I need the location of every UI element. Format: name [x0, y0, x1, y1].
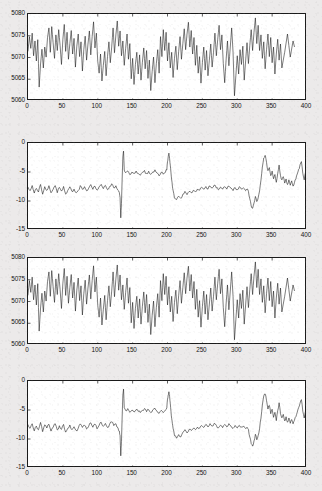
figure-canvas: 5060506550705075508005010015020025030035…: [0, 0, 322, 491]
plot-area-4: [27, 380, 306, 467]
x-tick-label-4-5: 250: [191, 469, 211, 476]
x-tick-label-4-6: 300: [226, 469, 246, 476]
x-tick-label-4-7: 350: [261, 469, 281, 476]
trace-svg-4: [28, 381, 306, 467]
data-trace-4: [28, 389, 306, 456]
x-tick-label-4-4: 200: [157, 469, 177, 476]
x-tick-label-4-8: 400: [296, 469, 316, 476]
x-tick-label-4-0: 0: [17, 469, 37, 476]
y-tick-label-4-1: -10: [1, 434, 25, 441]
y-tick-label-4-3: 0: [1, 376, 25, 383]
x-tick-label-4-3: 150: [122, 469, 142, 476]
y-tick-label-4-2: -5: [1, 405, 25, 412]
x-tick-label-4-1: 50: [52, 469, 72, 476]
plot-panel-4: -15-10-50050100150200250300350400: [0, 0, 322, 491]
x-tick-label-4-2: 100: [87, 469, 107, 476]
